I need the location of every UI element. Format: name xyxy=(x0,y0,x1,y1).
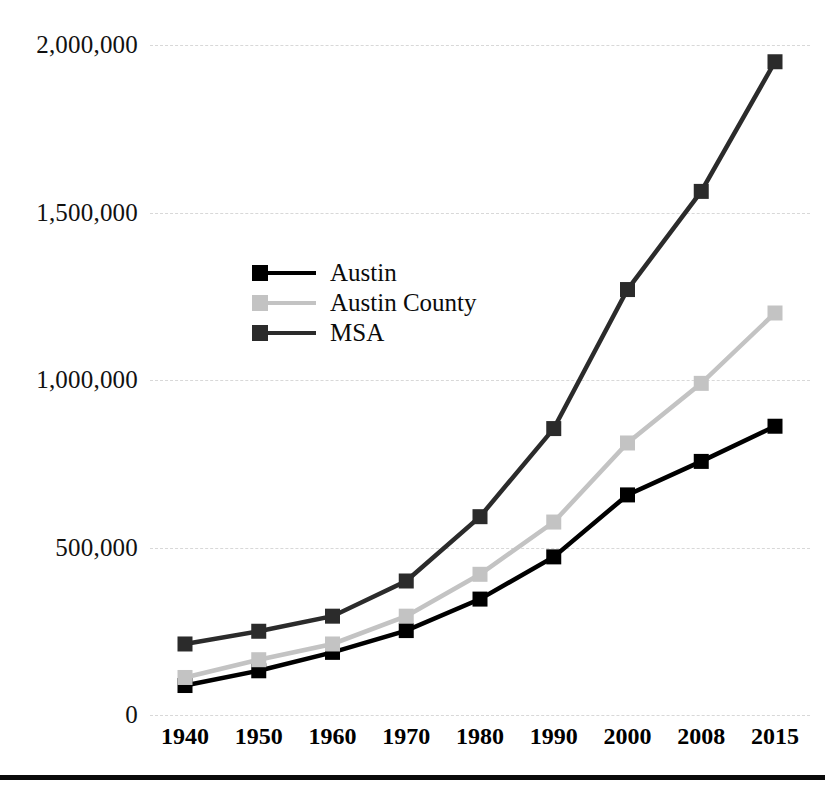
legend-item-label: MSA xyxy=(320,319,384,347)
y-axis-tick-label: 1,500,000 xyxy=(36,199,138,227)
x-axis-tick-label: 1990 xyxy=(530,723,578,750)
data-point-marker xyxy=(251,652,266,667)
plot-area xyxy=(150,45,810,715)
data-point-marker xyxy=(399,623,414,638)
series-layer xyxy=(150,45,810,715)
data-point-marker xyxy=(399,609,414,624)
legend-marker-square-icon xyxy=(252,265,268,281)
legend-item[interactable]: Austin xyxy=(252,258,482,288)
legend-item[interactable]: MSA xyxy=(252,318,482,348)
data-point-marker xyxy=(768,419,783,434)
series-msa xyxy=(178,54,783,651)
data-point-marker xyxy=(546,421,561,436)
data-point-marker xyxy=(694,184,709,199)
data-point-marker xyxy=(399,574,414,589)
y-axis-tick-label: 500,000 xyxy=(55,534,138,562)
x-axis-tick-label: 2008 xyxy=(677,723,725,750)
data-point-marker xyxy=(620,282,635,297)
legend-item[interactable]: Austin County xyxy=(252,288,482,318)
data-point-marker xyxy=(694,454,709,469)
x-axis-tick-label: 1950 xyxy=(235,723,283,750)
series-line xyxy=(185,62,775,644)
data-point-marker xyxy=(178,636,193,651)
data-point-marker xyxy=(473,592,488,607)
data-point-marker xyxy=(325,636,340,651)
x-axis-tick-label: 1940 xyxy=(161,723,209,750)
gridline xyxy=(150,715,810,716)
y-axis-tick-label: 1,000,000 xyxy=(36,366,138,394)
legend-swatch-icon xyxy=(252,323,320,343)
data-point-marker xyxy=(768,54,783,69)
series-line xyxy=(185,426,775,685)
data-point-marker xyxy=(620,435,635,450)
data-point-marker xyxy=(620,487,635,502)
legend-marker-square-icon xyxy=(252,325,268,341)
y-axis-tick-label: 2,000,000 xyxy=(36,31,138,59)
legend-marker-square-icon xyxy=(252,295,268,311)
x-axis-tick-label: 2000 xyxy=(604,723,652,750)
legend-swatch-icon xyxy=(252,263,320,283)
x-axis-tick-label: 1960 xyxy=(309,723,357,750)
legend-item-label: Austin xyxy=(320,259,397,287)
bottom-rule-divider xyxy=(0,775,825,780)
legend-swatch-icon xyxy=(252,293,320,313)
data-point-marker xyxy=(473,509,488,524)
x-axis-tick-label: 1980 xyxy=(456,723,504,750)
data-point-marker xyxy=(694,376,709,391)
population-growth-chart: 2,000,0001,500,0001,000,000500,0000 1940… xyxy=(0,0,825,794)
data-point-marker xyxy=(251,624,266,639)
data-point-marker xyxy=(325,609,340,624)
data-point-marker xyxy=(473,567,488,582)
x-axis-tick-labels: 194019501960197019801990200020082015 xyxy=(150,723,810,759)
y-axis-tick-labels: 2,000,0001,500,0001,000,000500,0000 xyxy=(0,45,138,715)
series-austin xyxy=(178,419,783,693)
x-axis-tick-label: 1970 xyxy=(382,723,430,750)
data-point-marker xyxy=(546,515,561,530)
data-point-marker xyxy=(546,549,561,564)
x-axis-tick-label: 2015 xyxy=(751,723,799,750)
data-point-marker xyxy=(178,670,193,685)
legend-item-label: Austin County xyxy=(320,289,477,317)
y-axis-tick-label: 0 xyxy=(125,701,138,729)
chart-legend: AustinAustin CountyMSA xyxy=(252,258,482,348)
series-line xyxy=(185,313,775,677)
data-point-marker xyxy=(768,306,783,321)
